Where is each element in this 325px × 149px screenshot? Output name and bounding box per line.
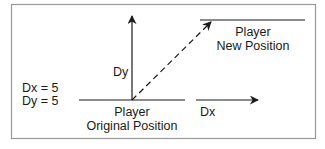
dx-axis-label: Dx [200,105,216,119]
dy-axis-label: Dy [113,65,129,79]
movement-diagram: Dy Dx Player New Position Player Origina… [0,0,325,149]
displacement-arrow [132,22,211,100]
new-position-label-line2: New Position [217,39,290,53]
original-position-label-line2: Original Position [86,119,177,133]
original-position-label-line1: Player [114,105,149,119]
dy-value-label: Dy = 5 [22,94,59,108]
dx-value-label: Dx = 5 [22,81,59,95]
new-position-label-line1: Player [235,25,270,39]
